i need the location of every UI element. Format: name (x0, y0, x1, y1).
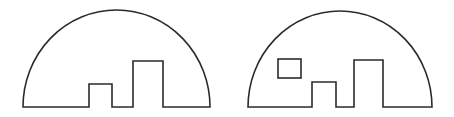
shape-right (248, 11, 432, 107)
figure-canvas (0, 0, 454, 117)
dome-shapes-diagram (0, 0, 454, 117)
square-window (278, 59, 301, 78)
shape-left-outline (23, 10, 210, 107)
shape-right-outline (248, 11, 432, 107)
shape-left (23, 10, 210, 107)
